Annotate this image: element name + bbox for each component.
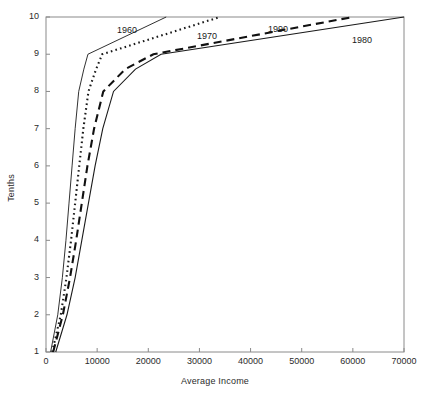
x-axis-title: Average Income [0, 376, 430, 386]
y-tick-label: 5 [17, 197, 39, 207]
y-tick-label: 1 [17, 346, 39, 356]
series-line-1960 [51, 17, 167, 352]
series-annotation-1990: 1990 [268, 24, 288, 34]
x-tick-label: 70000 [374, 356, 430, 366]
y-tick-label: 4 [17, 234, 39, 244]
y-axis-title: Tenths [6, 153, 16, 223]
series-line-1980 [56, 17, 404, 352]
y-tick-label: 8 [17, 85, 39, 95]
y-tick-label: 3 [17, 272, 39, 282]
series-line-1970 [52, 17, 220, 352]
y-tick-label: 10 [17, 11, 39, 21]
series-annotation-1980: 1980 [352, 35, 372, 45]
y-tick-label: 7 [17, 123, 39, 133]
plot-frame [46, 17, 404, 352]
plot-canvas [0, 0, 430, 396]
y-tick-label: 6 [17, 160, 39, 170]
y-axis-ticks [46, 17, 50, 352]
plot-border [46, 17, 404, 352]
x-axis-ticks [46, 348, 404, 352]
series-annotation-1970: 1970 [197, 31, 217, 41]
y-tick-label: 2 [17, 309, 39, 319]
lorenz-income-chart: Average Income Tenths 010000200003000040… [0, 0, 430, 396]
y-tick-label: 9 [17, 48, 39, 58]
data-series-group [51, 17, 404, 352]
series-line-1990 [53, 17, 353, 352]
series-annotation-1960: 1960 [117, 25, 137, 35]
